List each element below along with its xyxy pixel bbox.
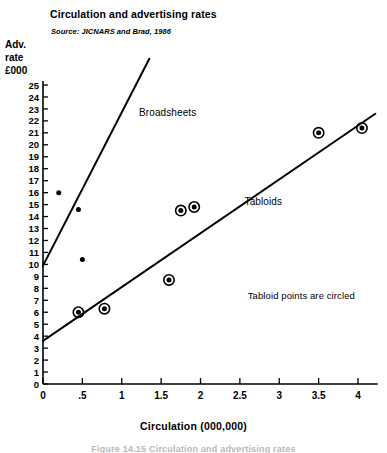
y-tick-label: 11 [29, 247, 40, 258]
x-tick-label: 1 [119, 390, 125, 401]
y-tick-label: 20 [28, 139, 39, 150]
y-tick-label: 23 [28, 104, 39, 115]
y-tick-label: 5 [34, 319, 40, 330]
x-tick-label: 3.5 [312, 390, 326, 401]
y-tick-label: 2 [34, 355, 39, 366]
y-tick-label: 19 [28, 151, 39, 162]
data-point-dot [316, 130, 321, 135]
figure-caption: Figure 14.15 Circulation and advertising… [0, 444, 387, 453]
data-point-dot [102, 306, 107, 311]
x-tick-label: 4 [355, 390, 361, 401]
x-tick-label: 3 [276, 390, 282, 401]
y-tick-label: 17 [28, 175, 39, 186]
y-tick-label: 6 [34, 307, 39, 318]
y-tick-label: 0 [34, 379, 39, 390]
x-tick-label: 2.5 [233, 390, 247, 401]
x-axis-ticks: 0.511.522.533.54 [40, 378, 361, 401]
trend-line-tabloids [43, 114, 375, 341]
y-tick-label: 15 [28, 199, 39, 210]
data-point-dot [76, 310, 81, 315]
y-tick-label: 7 [34, 295, 39, 306]
data-point-dot [80, 257, 85, 262]
annotation-broadsheets: Broadsheets [139, 107, 196, 118]
trend-line-broadsheets [43, 59, 149, 266]
annotation-tabloid-points-are-circled: Tabloid points are circled [248, 290, 355, 301]
y-tick-label: 16 [28, 187, 39, 198]
y-tick-label: 22 [28, 115, 39, 126]
y-tick-label: 21 [28, 127, 39, 138]
x-tick-label: 0 [40, 390, 46, 401]
y-tick-label: 12 [28, 235, 39, 246]
data-point-dot [76, 207, 81, 212]
data-point-dot [359, 126, 364, 131]
x-axis-label: Circulation (000,000) [0, 420, 387, 432]
data-point-dot [167, 277, 172, 282]
y-tick-label: 10 [28, 259, 39, 270]
y-tick-label: 25 [28, 80, 39, 91]
y-tick-label: 24 [28, 92, 39, 103]
x-tick-label: .5 [78, 390, 87, 401]
y-tick-label: 1 [34, 367, 40, 378]
axes [43, 81, 378, 384]
y-tick-label: 4 [34, 331, 40, 342]
x-tick-label: 1.5 [154, 390, 168, 401]
data-point-dot [192, 204, 197, 209]
y-tick-label: 18 [28, 163, 39, 174]
figure-container: Circulation and advertising rates Source… [0, 0, 387, 453]
data-point-dot [178, 208, 183, 213]
y-tick-label: 9 [34, 271, 39, 282]
data-point-dot [56, 190, 61, 195]
y-tick-label: 8 [34, 283, 39, 294]
y-tick-label: 14 [28, 211, 39, 222]
scatter-plot: 0123456789101112131415161718192021222324… [0, 0, 387, 453]
x-tick-label: 2 [198, 390, 204, 401]
y-tick-label: 3 [34, 343, 39, 354]
annotation-tabloids: Tabloids [245, 196, 283, 207]
y-tick-label: 13 [28, 223, 39, 234]
y-axis-ticks: 0123456789101112131415161718192021222324… [28, 80, 48, 390]
